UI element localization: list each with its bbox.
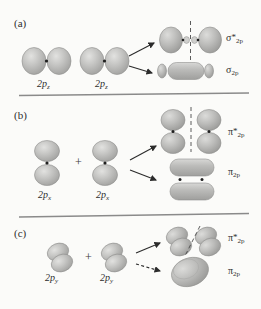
panel-divider-b <box>19 214 249 218</box>
label-2px-left: 2px <box>38 190 51 202</box>
plus-sign-b: + <box>75 156 82 168</box>
panel-c-tag: (c) <box>14 228 26 239</box>
label-sigma-star-sub: 2p <box>236 37 243 45</box>
label-pi-star-sub-b: 2p <box>238 131 245 139</box>
label-2px-right-sub: x <box>106 194 109 202</box>
label-2pz-right-sub: z <box>105 83 108 91</box>
atomic-orbital-c1 <box>45 240 76 275</box>
nucleus-dot <box>197 39 200 42</box>
mo-pi-star-2p <box>161 107 221 154</box>
arrow-c-antibonding <box>136 243 160 253</box>
panel-b <box>19 107 249 217</box>
label-pi-star-sub-c: 2p <box>238 237 245 245</box>
plus-sign-c: + <box>85 251 92 263</box>
nucleus-dot <box>179 178 182 181</box>
nucleus-dot <box>45 161 48 164</box>
label-2px-left-sub: x <box>48 194 51 202</box>
label-sigma-sub: 2p <box>231 69 238 77</box>
arrow-c-bonding <box>136 264 160 271</box>
label-2py-right: 2py <box>100 273 113 285</box>
label-2py-left-sub: y <box>55 277 58 285</box>
label-2py-right-sub: y <box>110 277 113 285</box>
label-sigma-star-2p: σ*2p <box>226 33 243 45</box>
nucleus-dot <box>182 39 185 42</box>
arrow-b-bonding <box>130 170 156 180</box>
mo-pi-2p-c <box>167 252 212 291</box>
atomic-orbital-a2 <box>80 48 129 75</box>
mo-sigma-star-2p <box>160 21 222 60</box>
nucleus-dot <box>103 161 106 164</box>
atomic-orbital-c2 <box>99 240 130 275</box>
label-pi-2p-c: π2p <box>228 266 240 278</box>
label-2pz-left: 2pz <box>37 79 50 91</box>
label-2pz-left-main: 2p <box>37 78 47 89</box>
label-2py-left: 2py <box>45 273 58 285</box>
label-pi-star-2p-c: π*2p <box>228 233 245 245</box>
mo-pi-2p <box>170 159 214 200</box>
label-pi-2p-b: π2p <box>228 167 240 179</box>
label-2px-left-main: 2p <box>38 189 48 200</box>
panel-c <box>45 224 224 292</box>
label-2pz-left-sub: z <box>47 83 50 91</box>
panel-a-tag: (a) <box>14 18 26 29</box>
nucleus-dot <box>201 178 204 181</box>
atomic-orbital-b2 <box>93 141 118 186</box>
nucleus-dot <box>172 130 175 133</box>
arrow-b-antibonding <box>130 146 156 160</box>
panel-b-tag: (b) <box>14 110 27 121</box>
arrow-a-antibonding <box>129 43 154 56</box>
label-2py-right-main: 2p <box>100 272 110 283</box>
label-2px-right: 2px <box>96 190 109 202</box>
nucleus-dot <box>103 59 106 62</box>
panel-divider-a <box>19 93 249 96</box>
label-2pz-right-main: 2p <box>95 78 105 89</box>
arrow-a-bonding <box>129 66 152 73</box>
label-2py-left-main: 2p <box>45 272 55 283</box>
atomic-orbital-a1 <box>22 48 71 75</box>
atomic-orbital-b1 <box>35 141 60 186</box>
panel-a <box>19 21 249 96</box>
label-2pz-right: 2pz <box>95 79 108 91</box>
label-pi-sub-c: 2p <box>233 270 240 278</box>
label-sigma-2p: σ2p <box>226 65 238 77</box>
nucleus-dot <box>208 130 211 133</box>
label-pi-star-2p-b: π*2p <box>228 127 245 139</box>
mo-sigma-2p <box>158 63 214 80</box>
mo-pi-star-2p-c <box>164 224 224 259</box>
molecular-orbital-diagram <box>0 0 261 309</box>
label-pi-sub-b: 2p <box>233 171 240 179</box>
nucleus-dot <box>45 59 48 62</box>
label-2px-right-main: 2p <box>96 189 106 200</box>
